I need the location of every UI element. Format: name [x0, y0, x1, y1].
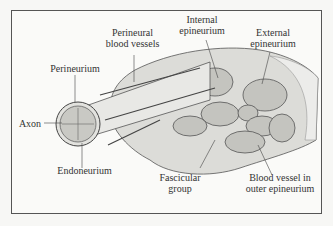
label-internal-epineurium: Internal epineurium: [172, 14, 232, 36]
label-fascicular-group: Fascicular group: [155, 172, 205, 194]
label-axon: Axon: [17, 118, 43, 129]
label-blood-vessel-outer-epineurium: Blood vessel in outer epineurium: [240, 172, 320, 194]
label-perineural-blood-vessels: Perineural blood vessels: [100, 27, 165, 49]
label-endoneurium: Endoneurium: [52, 165, 117, 176]
label-perineurium: Perineurium: [45, 63, 105, 74]
label-external-epineurium: External epineurium: [243, 27, 303, 49]
